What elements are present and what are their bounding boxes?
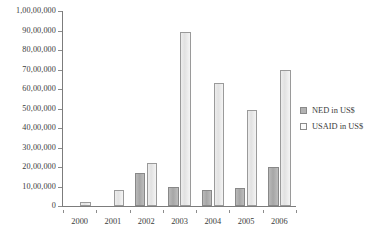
bar: [180, 32, 191, 206]
x-axis-tick-mark: [263, 210, 264, 213]
bar-chart: 010,00,00020,00,00030,00,00040,00,00050,…: [0, 0, 390, 241]
bar-group: [268, 11, 291, 206]
bar-group: [135, 11, 158, 206]
bar: [268, 167, 279, 206]
x-axis-tick-label: 2004: [204, 217, 221, 226]
x-axis-tick-mark: [229, 210, 230, 213]
y-axis-tick-label: 0: [52, 202, 56, 210]
y-axis-tick-label: 50,00,000: [22, 104, 56, 112]
bar: [80, 202, 91, 206]
y-axis-tick-label: 70,00,000: [22, 65, 56, 73]
y-axis: 010,00,00020,00,00030,00,00040,00,00050,…: [0, 0, 62, 215]
legend-item: NED in US$: [300, 106, 388, 115]
legend-label: NED in US$: [312, 106, 355, 115]
legend-swatch-icon: [300, 123, 307, 130]
x-axis-tick-label: 2002: [138, 217, 155, 226]
x-axis-tick-label: 2006: [271, 217, 288, 226]
legend-item: USAID in US$: [300, 122, 388, 131]
bar: [114, 190, 125, 206]
chart-legend: NED in US$USAID in US$: [300, 106, 388, 138]
x-axis-tick-mark: [96, 210, 97, 213]
legend-swatch-icon: [300, 107, 307, 114]
x-axis-tick-mark: [163, 210, 164, 213]
bar: [214, 83, 225, 206]
x-axis-tick-mark: [63, 210, 64, 213]
bar: [235, 188, 246, 206]
x-axis-tick-label: 2003: [171, 217, 188, 226]
bar-group: [202, 11, 225, 206]
bar: [147, 163, 158, 206]
bar: [135, 173, 146, 206]
bar-group: [235, 11, 258, 206]
x-axis-tick-label: 2005: [238, 217, 255, 226]
y-axis-tick-label: 80,00,000: [22, 46, 56, 54]
y-axis-tick-label: 1,00,00,000: [16, 7, 56, 15]
x-axis-tick-label: 2001: [105, 217, 122, 226]
y-axis-tick-label: 30,00,000: [22, 143, 56, 151]
bar: [202, 190, 213, 206]
bar-group: [168, 11, 191, 206]
y-axis-tick-label: 40,00,000: [22, 124, 56, 132]
bar: [280, 70, 291, 207]
bar: [247, 110, 258, 206]
x-axis-tick-mark: [130, 210, 131, 213]
y-axis-tick-label: 10,00,000: [22, 182, 56, 190]
x-axis-tick-mark: [296, 210, 297, 213]
y-axis-tick-label: 20,00,000: [22, 163, 56, 171]
bar: [168, 187, 179, 207]
x-axis-line: [62, 206, 296, 207]
y-axis-tick-label: 60,00,000: [22, 85, 56, 93]
x-axis-tick-mark: [196, 210, 197, 213]
y-axis-tick-label: 90,00,000: [22, 26, 56, 34]
bar-group: [68, 11, 91, 206]
x-axis-tick-label: 2000: [71, 217, 88, 226]
plot-area: [63, 11, 296, 206]
x-axis: 2000200120022003200420052006: [63, 210, 296, 230]
legend-label: USAID in US$: [312, 122, 363, 131]
bar-group: [102, 11, 125, 206]
